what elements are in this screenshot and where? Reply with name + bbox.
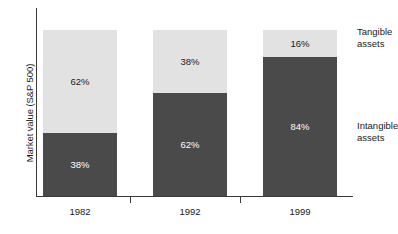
- bar-segment-tangible-1999[interactable]: 16%: [263, 30, 337, 57]
- bar-segment-label: 62%: [70, 77, 89, 87]
- bar-group-1992[interactable]: 38% 62%: [153, 30, 227, 196]
- legend-label-intangible-line2: assets: [357, 132, 398, 144]
- x-axis-line: [36, 196, 353, 197]
- plot-area: 62% 38% 38% 62% 16% 84%: [36, 30, 353, 196]
- bar-segment-tangible-1992[interactable]: 38%: [153, 30, 227, 93]
- bar-segment-intangible-1982[interactable]: 38%: [43, 133, 117, 196]
- legend-label-intangible-line1: Intangible: [357, 120, 398, 132]
- bar-segment-intangible-1999[interactable]: 84%: [263, 57, 337, 196]
- x-axis-label-1992: 1992: [153, 206, 227, 217]
- bar-segment-label: 38%: [70, 160, 89, 170]
- bar-segment-label: 62%: [180, 140, 199, 150]
- bar-segment-tangible-1982[interactable]: 62%: [43, 30, 117, 133]
- bar-group-1999[interactable]: 16% 84%: [263, 30, 337, 196]
- bar-group-1982[interactable]: 62% 38%: [43, 30, 117, 196]
- x-axis-tick-2: [240, 197, 241, 203]
- legend-label-tangible-line2: assets: [357, 38, 392, 50]
- legend-label-tangible-line1: Tangible: [357, 26, 392, 38]
- x-axis-label-1999: 1999: [263, 206, 337, 217]
- legend-item-tangible: Tangible assets: [357, 26, 392, 49]
- bar-segment-label: 16%: [290, 39, 309, 49]
- legend-item-intangible: Intangible assets: [357, 120, 398, 143]
- x-axis-label-1982: 1982: [43, 206, 117, 217]
- bar-segment-label: 84%: [290, 122, 309, 132]
- x-axis-tick-1: [130, 197, 131, 203]
- bar-segment-label: 38%: [180, 57, 199, 67]
- bar-segment-intangible-1992[interactable]: 62%: [153, 93, 227, 196]
